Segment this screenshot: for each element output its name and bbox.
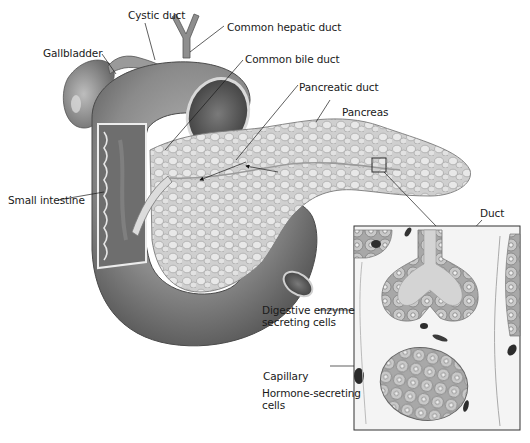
label-gallbladder: Gallbladder [43,47,102,59]
label-capillary: Capillary [263,370,308,382]
label-hormone-secreting-cells: Hormone-secreting cells [262,387,361,411]
label-hormone-line1: Hormone-secreting [262,387,361,399]
label-hormone-line2: cells [262,399,361,411]
label-small-intestine: Small intestine [8,194,85,206]
label-digestive-enzyme-line1: Digestive enzyme [262,304,355,316]
cellular-inset [354,226,520,430]
label-common-bile-duct: Common bile duct [245,53,340,65]
pancreas-diagram: Cystic duct Common hepatic duct Gallblad… [0,0,530,443]
label-digestive-enzyme-line2: secreting cells [262,316,355,328]
label-common-hepatic-duct: Common hepatic duct [227,21,341,33]
label-digestive-enzyme-cells: Digestive enzyme secreting cells [262,304,355,328]
label-pancreatic-duct: Pancreatic duct [299,81,379,93]
label-duct: Duct [480,207,504,219]
label-cystic-duct: Cystic duct [128,9,185,21]
label-pancreas: Pancreas [342,106,388,118]
